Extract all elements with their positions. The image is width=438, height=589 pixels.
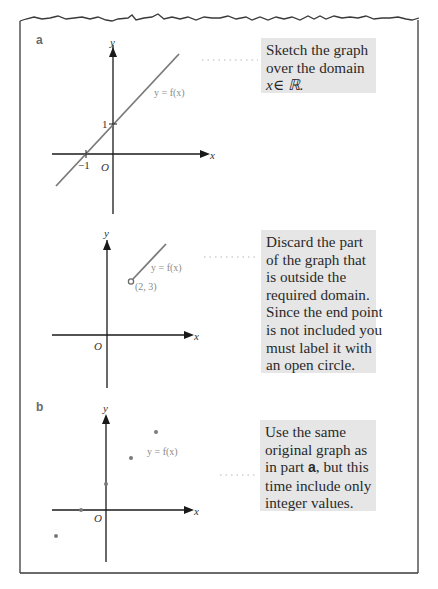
y-axis-label: y (103, 227, 109, 239)
torn-edge (20, 14, 419, 21)
x-tick-label: −1 (78, 159, 90, 171)
note-line: in part a, but this (265, 458, 372, 477)
y-arrow-icon (102, 414, 110, 424)
y-axis-label: y (102, 402, 108, 414)
y-axis-label: y (109, 36, 115, 48)
note-line: must label it with (266, 339, 372, 357)
note-line: Discard the part (266, 233, 372, 251)
note-line: Since the end point (266, 303, 372, 321)
note-line: is outside the (266, 268, 372, 286)
note-text: , but this (316, 458, 369, 475)
x-arrow-icon (184, 331, 194, 339)
note-line: integer values. (265, 494, 372, 512)
point-marker (154, 430, 158, 434)
y-arrow-icon (103, 240, 111, 250)
point-marker (104, 482, 108, 486)
x-axis-label: x (209, 149, 215, 161)
textbook-page: y x O 1 −1 y = f(x) y x O y = f(x) (2, 3… (0, 0, 438, 589)
point-marker (79, 508, 83, 512)
graph-3: y x O y = f(x) (52, 402, 199, 562)
note-box-discard: Discard the part of the graph that is ou… (261, 230, 376, 373)
note-line: of the graph that (266, 251, 372, 269)
x-axis-label: x (193, 505, 199, 517)
part-a-label: a (36, 33, 43, 47)
x-arrow-icon (200, 150, 210, 158)
note-line: an open circle. (266, 356, 372, 374)
note-line: Use the same (265, 423, 372, 441)
note-emphasis: a (308, 459, 316, 475)
note-line: over the domain (266, 59, 372, 77)
note-box-sketch: Sketch the graph over the domain x∈ ℝ. (261, 38, 376, 93)
y-tick-label: 1 (102, 118, 108, 130)
origin-label: O (101, 161, 109, 173)
note-line: x∈ ℝ. (266, 76, 372, 94)
part-b-label: b (36, 400, 43, 414)
origin-label: O (94, 512, 102, 524)
y-arrow-icon (109, 47, 117, 57)
x-axis-label: x (193, 330, 199, 342)
open-circle-icon (128, 279, 133, 284)
note-line: required domain. (266, 286, 372, 304)
function-label: y = f(x) (151, 262, 182, 274)
note-line: time include only (265, 477, 372, 495)
origin-label: O (94, 340, 102, 352)
note-line: Sketch the graph (266, 41, 372, 59)
note-box-integers: Use the same original graph as in part a… (260, 420, 376, 511)
function-label: y = f(x) (154, 87, 185, 99)
note-line: original graph as (265, 441, 372, 459)
point-marker (54, 534, 58, 538)
point-marker (129, 456, 133, 460)
note-text: in part (265, 458, 308, 475)
note-line: is not included you (266, 321, 372, 339)
graph-1: y x O 1 −1 y = f(x) (52, 36, 215, 214)
function-line (56, 54, 179, 186)
function-label: y = f(x) (147, 446, 178, 458)
point-label: (2, 3) (135, 281, 157, 293)
graph-2: y x O y = f(x) (2, 3) (52, 227, 199, 388)
x-arrow-icon (184, 506, 194, 514)
